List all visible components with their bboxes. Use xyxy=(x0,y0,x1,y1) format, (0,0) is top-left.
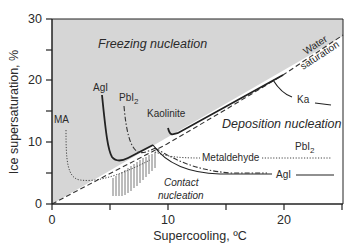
ka-extension xyxy=(315,103,331,105)
contact-label-1: Contact xyxy=(164,177,200,188)
y-tick-10: 10 xyxy=(28,135,42,149)
deposition-label: Deposition nucleation xyxy=(222,117,342,131)
kaolinite-label: Kaolinite xyxy=(147,108,186,119)
y-axis-label: Ice supersaturation, % xyxy=(7,50,21,174)
y-ticks xyxy=(46,19,52,204)
contact-label-2: nucleation xyxy=(158,190,204,201)
y-tick-20: 20 xyxy=(28,73,42,87)
agi-label: AgI xyxy=(93,82,108,93)
agi-right-label: AgI xyxy=(276,169,291,180)
metaldehyde-label: Metaldehyde xyxy=(202,152,260,163)
freezing-label: Freezing nucleation xyxy=(98,37,207,51)
x-axis-label: Supercooling, ºC xyxy=(153,229,247,243)
ka-curve xyxy=(273,80,292,97)
y-tick-30: 30 xyxy=(28,12,42,26)
nucleation-chart: 0 10 20 0 10 20 30 Supercooling, ºC Ice … xyxy=(0,0,353,252)
pbi2-right-label: PbI2 xyxy=(295,141,315,155)
x-tick-20: 20 xyxy=(277,213,291,227)
ka-label: Ka xyxy=(297,94,310,105)
x-tick-0: 0 xyxy=(49,213,56,227)
x-tick-10: 10 xyxy=(161,213,175,227)
ma-label: MA xyxy=(54,114,69,125)
y-tick-0: 0 xyxy=(35,197,42,211)
x-ticks xyxy=(52,204,342,210)
